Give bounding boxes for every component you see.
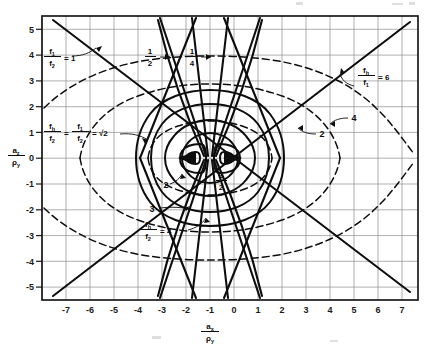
ytick-label: -5 [26, 282, 34, 292]
frac-numerator: 1 [190, 47, 195, 56]
annot-mid-den-sub: 2 [80, 138, 83, 144]
ytick-label: 0 [29, 153, 34, 163]
frac-denominator: 2 [148, 59, 153, 68]
xtick-label: 4 [327, 305, 332, 315]
ytick-label: 4 [29, 50, 34, 60]
contour-label-3-left: 3 [149, 204, 154, 214]
annot-den-sub: 2 [148, 236, 151, 242]
annot-equals: = 6 [378, 73, 390, 82]
x-axis-tick-labels: -7 -6 -5 -4 -3 -2 -1 0 1 2 3 4 5 6 7 [62, 305, 405, 315]
annot-equals-sqrt: = √2 [92, 129, 108, 138]
xtick-label: -1 [206, 305, 214, 315]
xtick-label: 7 [399, 305, 404, 315]
annot-equals: = 4 [160, 227, 172, 236]
xtick-label: 6 [375, 305, 380, 315]
xtick-label: -3 [158, 305, 166, 315]
annot-den-sub: 2 [52, 63, 55, 69]
ytick-label: 1 [29, 128, 34, 138]
contour-label-2-left: 2 [163, 180, 168, 190]
annot-equals-1: = [64, 129, 69, 138]
annot-den-sub: 1 [366, 82, 369, 88]
chart-figure: -7 -6 -5 -4 -3 -2 -1 0 1 2 3 4 5 6 7 5 4… [0, 0, 431, 349]
xtick-label: 2 [279, 305, 284, 315]
chart-svg: -7 -6 -5 -4 -3 -2 -1 0 1 2 3 4 5 6 7 5 4… [0, 0, 431, 349]
ytick-label: -4 [26, 257, 34, 267]
ytick-label: 3 [29, 76, 34, 86]
chart-background [0, 0, 431, 349]
xtick-label: -2 [182, 305, 190, 315]
ytick-label: -1 [26, 179, 34, 189]
contour-label-4-right: 4 [351, 113, 356, 123]
frac-numerator: 1 [148, 47, 153, 56]
contour-label-2-right: 2 [319, 129, 324, 139]
ytick-label: -2 [26, 205, 34, 215]
xtick-label: 3 [303, 305, 308, 315]
frac-numerator: 3 [219, 171, 224, 180]
xtick-label: -4 [134, 305, 142, 315]
xtick-label: 0 [231, 305, 236, 315]
ytick-label: 2 [29, 102, 34, 112]
frac-denominator: 2 [219, 183, 224, 192]
annot-den-sub: 2 [52, 138, 55, 144]
xtick-label: -5 [110, 305, 118, 315]
ytick-label: 5 [29, 25, 34, 35]
frac-denominator: 4 [190, 59, 195, 68]
xtick-label: 5 [351, 305, 356, 315]
xtick-label: 1 [255, 305, 260, 315]
annot-equals: = 1 [64, 54, 76, 63]
xtick-label: -6 [86, 305, 94, 315]
xtick-label: -7 [62, 305, 70, 315]
ytick-label: -3 [26, 231, 34, 241]
